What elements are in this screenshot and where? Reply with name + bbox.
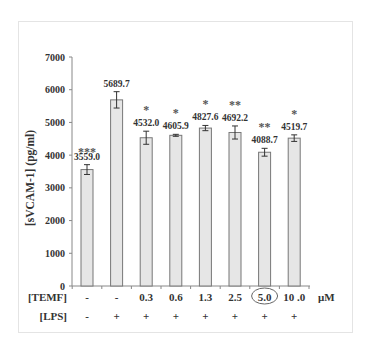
y-tick-label: 1000 — [45, 248, 65, 259]
significance-marker: * — [291, 107, 297, 121]
bar — [81, 170, 93, 286]
row-value: 2.5 — [228, 291, 242, 303]
bar — [229, 132, 241, 286]
y-tick-label: 6000 — [45, 84, 65, 95]
row-value: 0.6 — [169, 291, 183, 303]
value-label: 4088.7 — [252, 135, 278, 145]
row-value: 10 .0 — [283, 291, 306, 303]
row-value: - — [85, 291, 89, 303]
value-label: 4605.9 — [163, 121, 189, 131]
value-label: 4519.7 — [281, 122, 307, 132]
bar — [199, 128, 211, 286]
row-label: [LPS] — [40, 310, 68, 322]
row-value: + — [173, 310, 179, 322]
significance-marker: ** — [259, 120, 271, 134]
y-tick-label: 3000 — [45, 182, 65, 193]
bar-chart: 01000200030004000500060007000[sVCAM-1] (… — [0, 0, 369, 353]
bar — [140, 138, 152, 286]
significance-marker: * — [173, 106, 179, 120]
bar — [170, 135, 182, 286]
significance-marker: ** — [229, 98, 241, 112]
row-value: + — [143, 310, 149, 322]
significance-marker: *** — [78, 145, 96, 159]
bar — [288, 138, 300, 286]
significance-marker: * — [143, 103, 149, 117]
bar — [259, 152, 271, 286]
row-value: + — [113, 310, 119, 322]
significance-marker: * — [202, 97, 208, 111]
value-label: 4532.0 — [133, 118, 159, 128]
row-value: - — [85, 310, 89, 322]
row-value: + — [261, 310, 267, 322]
row-value: 0.3 — [139, 291, 153, 303]
y-tick-label: 4000 — [45, 150, 65, 161]
unit-label: μM — [318, 291, 335, 303]
bar — [111, 100, 123, 286]
row-value: - — [115, 291, 119, 303]
row-value: 1.3 — [199, 291, 213, 303]
row-value: + — [202, 310, 208, 322]
row-label: [TEMF] — [28, 291, 67, 303]
row-value: + — [232, 310, 238, 322]
value-label: 4827.6 — [192, 112, 218, 122]
y-tick-label: 2000 — [45, 215, 65, 226]
value-label: 5689.7 — [104, 79, 130, 89]
y-tick-label: 0 — [60, 281, 65, 292]
y-tick-label: 7000 — [45, 52, 65, 63]
y-tick-label: 5000 — [45, 117, 65, 128]
row-value: 5.0 — [258, 291, 272, 303]
value-label: 4692.2 — [222, 113, 248, 123]
row-value: + — [291, 310, 297, 322]
y-axis-label: [sVCAM-1] (pg/ml) — [24, 130, 37, 226]
